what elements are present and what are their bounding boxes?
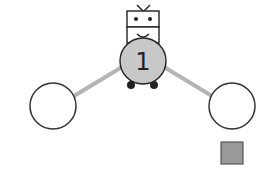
robot-number: 1 — [135, 48, 150, 76]
edge-left — [74, 67, 122, 96]
square-marker — [221, 142, 243, 164]
left-node — [30, 83, 76, 129]
edge-right — [164, 67, 212, 96]
diagram-canvas: 1 — [0, 0, 271, 173]
robot-icon: 1 — [120, 5, 166, 89]
robot-head — [127, 11, 159, 27]
right-node — [209, 83, 255, 129]
